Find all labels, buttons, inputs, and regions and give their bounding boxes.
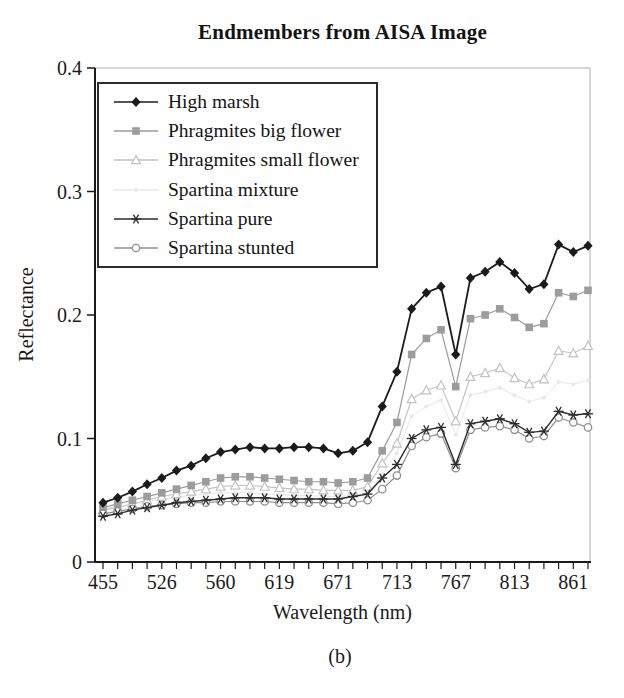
series-phragmites-small-flower <box>99 341 593 513</box>
x-tick-label: 526 <box>147 571 177 593</box>
y-tick-label: 0.1 <box>57 428 82 450</box>
x-tick-label: 671 <box>323 571 353 593</box>
x-tick-label: 813 <box>500 571 530 593</box>
series-spartina-stunted <box>99 414 591 518</box>
legend-label: Spartina stunted <box>168 237 294 259</box>
square-marker-icon <box>113 123 159 139</box>
figure-caption: (b) <box>60 645 620 668</box>
x-tick-label: 455 <box>88 571 118 593</box>
triangle-open-marker-icon <box>113 152 159 168</box>
asterisk-marker-icon <box>113 211 159 227</box>
legend-item-phragmites-small-flower: Phragmites small flower <box>113 146 376 174</box>
legend-item-high-marsh: High marsh <box>113 88 376 116</box>
series-high-marsh <box>98 240 592 508</box>
x-tick-label: 713 <box>382 571 412 593</box>
x-tick-label: 767 <box>441 571 471 593</box>
series-line <box>103 290 588 507</box>
legend-item-spartina-stunted: Spartina stunted <box>113 234 376 262</box>
y-tick-label: 0.3 <box>57 181 82 203</box>
chart-legend: High marshPhragmites big flowerPhragmite… <box>97 82 378 268</box>
legend-label: Phragmites big flower <box>168 120 341 142</box>
circle-open-marker-icon <box>113 240 159 256</box>
legend-item-spartina-mixture: Spartina mixture <box>113 176 376 204</box>
y-tick-label: 0.4 <box>57 57 82 79</box>
legend-label: Spartina pure <box>168 208 273 230</box>
x-tick-label: 560 <box>206 571 236 593</box>
x-tick-label: 861 <box>558 571 588 593</box>
series-phragmites-big-flower <box>99 287 592 512</box>
legend-item-spartina-pure: Spartina pure <box>113 205 376 233</box>
legend-label: Spartina mixture <box>168 179 299 201</box>
x-tick-label: 619 <box>264 571 294 593</box>
y-tick-label: 0 <box>72 551 82 573</box>
legend-item-phragmites-big-flower: Phragmites big flower <box>113 117 376 145</box>
y-tick-label: 0.2 <box>57 304 82 326</box>
x-axis-title: Wavelength (nm) <box>60 601 624 624</box>
legend-label: Phragmites small flower <box>168 149 359 171</box>
diamond-marker-icon <box>113 94 159 110</box>
dot-marker-icon <box>113 182 159 198</box>
legend-label: High marsh <box>168 91 260 113</box>
figure-page: Endmembers from AISA Image Reflectance 0… <box>0 0 624 698</box>
